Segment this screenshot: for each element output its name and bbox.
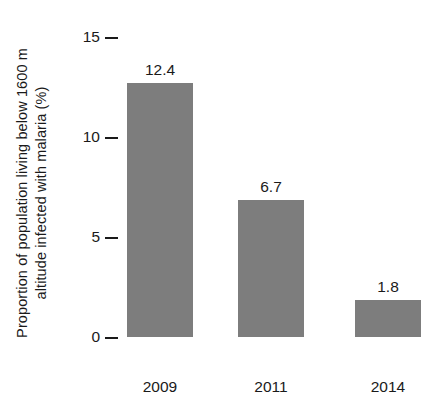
x-axis-label-2014: 2014 — [333, 377, 443, 396]
bar-2011[interactable] — [238, 200, 304, 337]
y-axis-tick-15: 15 — [64, 37, 120, 38]
bar-value-label: 1.8 — [333, 278, 443, 296]
y-axis-title: Proportion of population living below 16… — [13, 48, 51, 338]
x-axis-label-2011: 2011 — [216, 377, 326, 396]
y-axis-title-container: Proportion of population living below 16… — [0, 0, 64, 385]
y-axis-tick-10: 10 — [64, 137, 120, 138]
x-axis-label-2009: 2009 — [105, 377, 215, 396]
y-axis-tick-label: 5 — [91, 227, 100, 246]
y-axis-tick-5: 5 — [64, 237, 120, 238]
bar-2014[interactable] — [355, 300, 421, 337]
y-axis-title-line-2: altitude infected with malaria (%) — [32, 48, 51, 338]
y-axis-tick-dash-icon — [105, 137, 118, 139]
y-axis-tick-dash-icon — [105, 337, 118, 339]
bar-2009[interactable] — [127, 83, 193, 337]
y-axis-tick-0: 0 — [64, 337, 120, 338]
y-axis-title-line-1: Proportion of population living below 16… — [13, 48, 32, 338]
plot-area: 12.4 6.7 1.8 2009 2011 2014 — [120, 30, 435, 343]
y-axis-tick-label: 15 — [83, 27, 100, 46]
y-axis-tick-dash-icon — [105, 237, 118, 239]
bar-value-label: 6.7 — [216, 178, 326, 196]
y-axis-tick-dash-icon — [105, 37, 118, 39]
bar-value-label: 12.4 — [105, 61, 215, 79]
y-axis-tick-label: 0 — [91, 327, 100, 346]
y-axis-tick-label: 10 — [83, 127, 100, 146]
